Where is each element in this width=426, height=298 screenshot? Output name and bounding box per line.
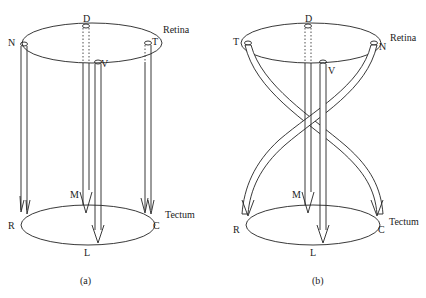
- label-m-a: M: [70, 189, 79, 200]
- caption-a: (a): [80, 275, 91, 287]
- tectum-ellipse-b: [246, 205, 380, 245]
- label-m-b: M: [292, 189, 301, 200]
- tectum-label-b: Tectum: [389, 216, 419, 227]
- label-t-b: T: [233, 36, 239, 47]
- label-l-b: L: [310, 247, 316, 258]
- label-n-b: N: [379, 41, 386, 52]
- label-d-a: D: [83, 13, 90, 24]
- panel-a: D N T V Retina M R C L Tectum (a): [8, 13, 195, 287]
- label-c-b: C: [378, 224, 385, 235]
- label-r-a: R: [8, 220, 15, 231]
- label-t-a: T: [152, 36, 158, 47]
- label-n-a: N: [8, 37, 15, 48]
- label-c-a: C: [153, 220, 160, 231]
- label-r-b: R: [233, 224, 240, 235]
- tectum-ellipse-a: [21, 205, 155, 245]
- retina-ellipse-a: [22, 23, 162, 63]
- retina-label-a: Retina: [163, 24, 190, 35]
- panel-b: D T N V Retina M R C L Tectum (b): [233, 13, 419, 287]
- label-v-b: V: [328, 65, 336, 76]
- label-d-b: D: [305, 13, 312, 24]
- retina-label-b: Retina: [390, 32, 417, 43]
- retinotectal-projection-figure: D N T V Retina M R C L Tectum (a): [0, 0, 426, 298]
- tectum-label-a: Tectum: [165, 209, 195, 220]
- label-l-a: L: [84, 247, 90, 258]
- label-v-a: V: [101, 58, 109, 69]
- caption-b: (b): [312, 275, 324, 287]
